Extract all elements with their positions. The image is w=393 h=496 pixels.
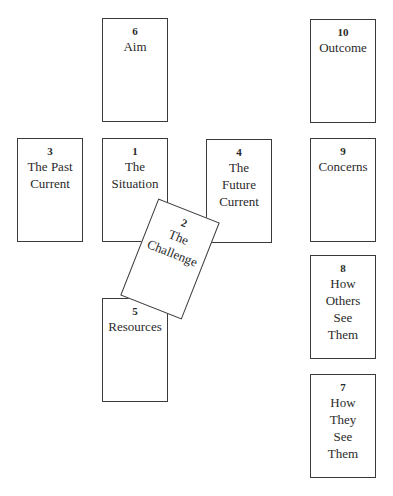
card-label: Future [207,177,271,193]
card-label: Outcome [311,40,375,56]
card-number: 6 [103,25,167,38]
card-number: 9 [311,145,375,158]
card-label: The Past [18,159,82,175]
card-label: The [207,160,271,176]
card-label: Them [311,446,375,462]
card-label: Aim [103,39,167,55]
card-number: 1 [103,145,167,158]
card-number: 7 [311,381,375,394]
card-label: Others [311,293,375,309]
card-label: The [103,159,167,175]
card-number: 3 [18,145,82,158]
card-6-aim: 6 Aim [102,18,168,122]
card-label: See [311,310,375,326]
card-number: 10 [311,26,375,39]
card-label: Them [311,327,375,343]
card-8-how-others-see-them: 8 How Others See Them [310,255,376,359]
card-label: They [311,412,375,428]
card-label: How [311,276,375,292]
card-label: Concerns [311,159,375,175]
card-3-past-current: 3 The Past Current [17,138,83,242]
card-label: How [311,395,375,411]
card-9-concerns: 9 Concerns [310,138,376,242]
card-label: Resources [103,319,167,335]
card-label: Current [18,176,82,192]
card-label: Current [207,194,271,210]
card-label: See [311,429,375,445]
card-label: Situation [103,176,167,192]
card-7-how-they-see-them: 7 How They See Them [310,374,376,478]
card-number: 8 [311,262,375,275]
card-5-resources: 5 Resources [102,298,168,402]
card-10-outcome: 10 Outcome [310,19,376,123]
card-number: 4 [207,146,271,159]
